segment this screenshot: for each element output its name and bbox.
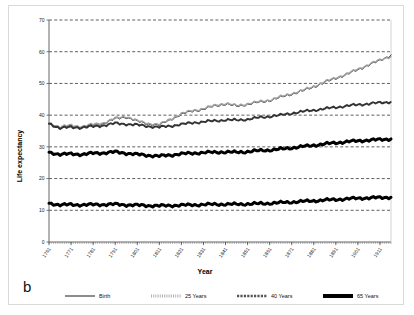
series-line: [49, 56, 391, 128]
y-tick-label: 30: [39, 144, 45, 150]
y-tick-label: 0: [42, 239, 45, 245]
x-tick-label: 1771: [63, 246, 74, 259]
x-tick-label: 1901: [350, 246, 361, 259]
y-tick-label: 40: [39, 112, 45, 118]
x-tick-label: 1871: [283, 246, 294, 259]
x-tick-label: 1781: [85, 246, 96, 259]
y-tick-label: 50: [39, 80, 45, 86]
x-tick-label: 1811: [151, 246, 162, 258]
legend-label: Birth: [99, 293, 110, 299]
legend-label: 40 Years: [271, 293, 293, 299]
x-axis-title: Year: [198, 268, 213, 275]
y-tick-label: 70: [39, 17, 45, 23]
x-tick-label: 1791: [107, 246, 118, 259]
series-line: [49, 197, 391, 207]
x-tick-label: 1831: [195, 246, 206, 259]
x-tick-label: 1851: [239, 246, 250, 259]
y-tick-label: 20: [39, 175, 45, 181]
legend-label: 25 Years: [185, 293, 207, 299]
x-tick-label: 1801: [129, 246, 140, 259]
y-tick-label: 60: [39, 49, 45, 55]
legend-label: 65 Years: [357, 293, 379, 299]
x-tick-label: 1861: [261, 246, 272, 259]
axis-lines: [49, 20, 391, 242]
series-line: [49, 139, 391, 157]
x-tick-label: 1821: [173, 246, 184, 259]
chart-legend: Birth25 Years40 Years65 Years: [65, 293, 379, 299]
x-tick-label: 1761: [41, 246, 52, 259]
y-axis-title: Life expectancy: [16, 130, 24, 183]
x-tick-labels: 1761177117811791180118111821183118411851…: [41, 242, 391, 259]
data-series: [49, 55, 391, 207]
y-tick-labels: 010203040506070: [39, 17, 49, 245]
x-tick-label: 1841: [217, 246, 228, 259]
life-expectancy-line-chart: 010203040506070 176117711781179118011811…: [9, 6, 405, 306]
gridlines: [49, 20, 391, 210]
x-tick-label: 1891: [328, 246, 339, 259]
series-line: [49, 55, 391, 129]
panel-letter: b: [23, 278, 31, 295]
x-tick-label: 1881: [305, 246, 316, 259]
figure-panel: 010203040506070 176117711781179118011811…: [8, 5, 404, 305]
x-tick-label: 1911: [372, 246, 383, 258]
y-tick-label: 10: [39, 207, 45, 213]
